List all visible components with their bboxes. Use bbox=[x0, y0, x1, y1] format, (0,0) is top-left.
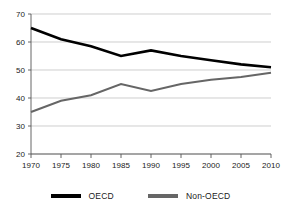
y-tick-label: 50 bbox=[16, 66, 25, 75]
x-axis-ticks: 197019751980198519901995200020052010 bbox=[22, 154, 280, 170]
x-tick-label: 2010 bbox=[262, 161, 280, 170]
x-tick-label: 1985 bbox=[112, 161, 130, 170]
x-tick-label: 1975 bbox=[52, 161, 70, 170]
series-line-non-oecd bbox=[31, 73, 271, 112]
y-tick-label: 30 bbox=[16, 122, 25, 131]
y-tick-label: 20 bbox=[16, 150, 25, 159]
y-tick-label: 70 bbox=[16, 10, 25, 19]
x-tick-label: 1980 bbox=[82, 161, 100, 170]
x-tick-label: 1970 bbox=[22, 161, 40, 170]
y-axis-ticks: 203040506070 bbox=[16, 10, 31, 159]
legend-item-oecd[interactable]: OECD bbox=[51, 191, 114, 201]
x-tick-label: 2005 bbox=[232, 161, 250, 170]
y-tick-label: 60 bbox=[16, 38, 25, 47]
legend-swatch bbox=[148, 194, 178, 198]
gridlines bbox=[31, 14, 271, 154]
chart-legend: OECDNon-OECD bbox=[0, 183, 281, 209]
legend-label: Non-OECD bbox=[186, 191, 231, 201]
chart-plot-area: 203040506070 197019751980198519901995200… bbox=[0, 0, 281, 209]
x-tick-label: 1995 bbox=[172, 161, 190, 170]
legend-item-non-oecd[interactable]: Non-OECD bbox=[148, 191, 231, 201]
series-line-oecd bbox=[31, 28, 271, 67]
x-tick-label: 2000 bbox=[202, 161, 220, 170]
legend-swatch bbox=[51, 194, 81, 198]
legend-label: OECD bbox=[89, 191, 114, 201]
y-tick-label: 40 bbox=[16, 94, 25, 103]
x-tick-label: 1990 bbox=[142, 161, 160, 170]
line-chart: 203040506070 197019751980198519901995200… bbox=[0, 0, 281, 209]
